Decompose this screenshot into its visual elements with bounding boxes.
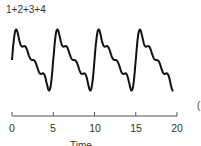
x-tick-label: 10 (89, 122, 101, 134)
clipped-label-fragment: ( (197, 100, 200, 111)
x-tick-label: 5 (50, 122, 56, 134)
waveform-line (12, 30, 173, 91)
x-axis-label: Time (70, 140, 92, 146)
x-tick-label: 0 (9, 122, 15, 134)
x-tick-label: 20 (171, 122, 183, 134)
x-tick-label: 15 (130, 122, 142, 134)
x-axis-ticks (12, 112, 177, 116)
